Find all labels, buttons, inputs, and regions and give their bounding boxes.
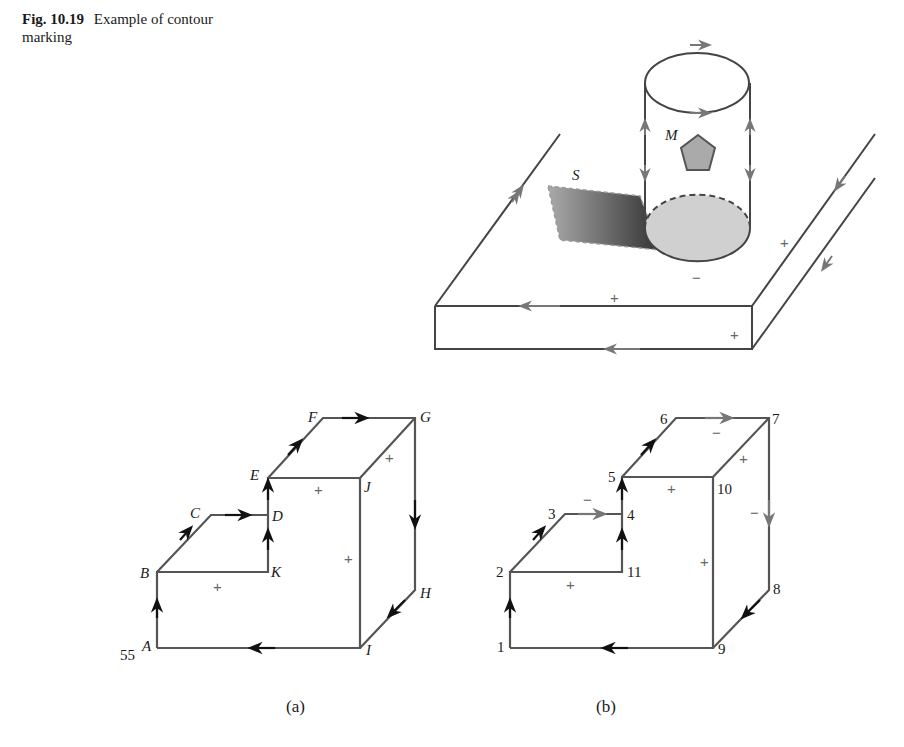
figure-a-labels: A B C D E F G H I J K 55 + + + + [120,409,432,663]
sign-plus: + [213,578,222,595]
sign-minus: − [712,424,721,441]
sign-plus: + [700,553,709,570]
label-S: S [572,167,580,183]
point-4: 4 [627,507,635,523]
point-3: 3 [548,506,556,522]
point-10: 10 [717,481,732,497]
sign-plus: + [780,234,789,251]
sign-plus: + [385,449,394,466]
top-figure [435,45,875,349]
sign-plus: + [667,480,676,497]
point-J: J [364,479,372,495]
figure-b-shape [510,418,769,648]
figure-a-shape [157,418,415,648]
point-H: H [419,585,432,601]
label-55: 55 [120,647,135,663]
point-2: 2 [496,564,504,580]
label-M: M [664,127,679,143]
subfigure-label-b: (b) [596,697,616,717]
point-F: F [307,409,318,425]
point-7: 7 [772,411,780,427]
point-I: I [365,642,372,658]
sign-minus: − [692,269,701,286]
point-K: K [270,564,282,580]
sign-plus: + [344,550,353,567]
subfigure-label-a: (a) [286,697,305,717]
point-6: 6 [660,411,668,427]
point-E: E [249,467,259,483]
sign-plus: + [730,326,739,343]
sign-plus: + [739,450,748,467]
point-1: 1 [497,639,505,655]
sign-minus: − [583,491,592,508]
point-8: 8 [773,581,781,597]
point-11: 11 [627,564,641,580]
point-A: A [141,638,152,654]
point-5: 5 [608,469,616,485]
point-G: G [420,409,431,425]
sign-plus: + [314,481,323,498]
figure-drawings: S M + + + − A B C D E F G H I J K 55 + +… [0,0,904,747]
sign-plus: + [610,289,619,306]
point-B: B [140,565,149,581]
sign-plus: + [566,576,575,593]
sign-minus: − [750,504,759,521]
point-D: D [271,508,283,524]
point-9: 9 [718,641,726,657]
point-C: C [190,505,201,521]
